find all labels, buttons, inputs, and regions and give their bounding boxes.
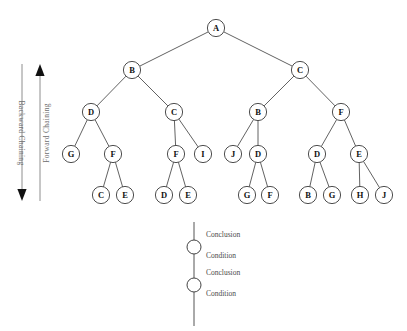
tree-edge: [75, 120, 88, 146]
tree-node[interactable]: E: [350, 145, 367, 162]
tree-edge: [320, 162, 329, 187]
node-label: F: [338, 107, 343, 117]
node-label: D: [314, 149, 320, 159]
tree-node[interactable]: J: [375, 186, 392, 203]
tree-node[interactable]: D: [249, 145, 266, 162]
tree-node[interactable]: H: [351, 186, 368, 203]
legend-node-circle: [187, 278, 201, 292]
legend-node-circle: [187, 240, 201, 254]
tree-node[interactable]: F: [261, 186, 278, 203]
tree-edge: [237, 119, 253, 146]
chaining-axes-layer: Backward ChainingForward Chaining: [17, 64, 51, 201]
tree-nodes-layer: ABCDCBFGFFIJDDECEDEGFBGHJ: [62, 19, 392, 203]
node-label: C: [171, 107, 177, 117]
node-label: E: [356, 149, 362, 159]
tree-node[interactable]: G: [238, 186, 255, 203]
tree-node[interactable]: E: [179, 186, 196, 203]
node-label: G: [244, 190, 251, 200]
tree-edge: [138, 76, 168, 106]
legend-label-2: Conclusion: [206, 268, 240, 277]
legend-label-3: Condition: [206, 289, 236, 298]
tree-node[interactable]: F: [104, 145, 121, 162]
tree-edge: [115, 162, 122, 187]
axis-arrowhead: [17, 189, 26, 201]
node-label: C: [297, 65, 303, 75]
node-label: D: [88, 107, 94, 117]
tree-node[interactable]: G: [323, 186, 340, 203]
tree-node[interactable]: D: [82, 103, 99, 120]
inference-tree-diagram: ABCDCBFGFFIJDDECEDEGFBGHJ Backward Chain…: [0, 0, 407, 331]
chaining-axis-backward-chaining: Backward Chaining: [17, 64, 27, 201]
tree-edge: [249, 162, 256, 186]
tree-edge: [95, 120, 109, 147]
tree-edge: [179, 119, 198, 147]
tree-node[interactable]: F: [332, 103, 349, 120]
tree-node[interactable]: C: [92, 186, 109, 203]
legend-label-0: Conclusion: [206, 230, 240, 239]
tree-edge: [359, 163, 360, 187]
node-label: A: [213, 23, 220, 33]
tree-edge: [260, 162, 267, 187]
tree-node[interactable]: E: [116, 186, 133, 203]
tree-edge: [264, 76, 294, 106]
node-label: F: [110, 149, 115, 159]
node-label: B: [129, 65, 135, 75]
tree-edge: [166, 162, 173, 187]
legend-layer: ConclusionConditionConclusionCondition: [187, 222, 240, 326]
tree-node[interactable]: D: [308, 145, 325, 162]
tree-node[interactable]: C: [291, 61, 308, 78]
chaining-axis-forward-chaining: Forward Chaining: [35, 64, 51, 201]
node-label: F: [173, 149, 178, 159]
axis-arrowhead: [35, 64, 44, 76]
legend-label-1: Condition: [206, 251, 236, 260]
tree-node[interactable]: B: [123, 61, 140, 78]
tree-edge: [97, 76, 126, 106]
tree-edge: [178, 162, 185, 187]
tree-node[interactable]: J: [224, 145, 241, 162]
tree-node[interactable]: F: [167, 145, 184, 162]
node-label: E: [122, 190, 128, 200]
tree-edge: [344, 120, 355, 146]
tree-node[interactable]: D: [155, 186, 172, 203]
tree-edge: [363, 161, 379, 187]
axis-label-backward-chaining: Backward Chaining: [17, 101, 26, 166]
tree-edge: [306, 76, 335, 106]
node-label: B: [305, 190, 311, 200]
diagram-canvas: ABCDCBFGFFIJDDECEDEGFBGHJ Backward Chain…: [0, 0, 407, 331]
tree-node[interactable]: G: [62, 145, 79, 162]
node-label: G: [329, 190, 336, 200]
node-label: D: [161, 190, 167, 200]
tree-edge: [174, 121, 175, 146]
tree-edge: [321, 119, 336, 146]
node-label: H: [357, 190, 364, 200]
node-label: E: [185, 190, 191, 200]
tree-node[interactable]: B: [299, 186, 316, 203]
tree-edge: [140, 32, 209, 66]
tree-node[interactable]: B: [249, 103, 266, 120]
tree-edge: [224, 32, 293, 66]
tree-node[interactable]: I: [194, 145, 211, 162]
tree-edge: [310, 162, 315, 186]
node-label: F: [267, 190, 272, 200]
node-label: D: [255, 149, 261, 159]
axis-label-forward-chaining: Forward Chaining: [42, 103, 51, 163]
node-label: B: [255, 107, 261, 117]
tree-node[interactable]: A: [207, 19, 224, 36]
node-label: C: [98, 190, 104, 200]
node-label: G: [68, 149, 75, 159]
tree-edge: [103, 162, 110, 187]
tree-node[interactable]: C: [165, 103, 182, 120]
